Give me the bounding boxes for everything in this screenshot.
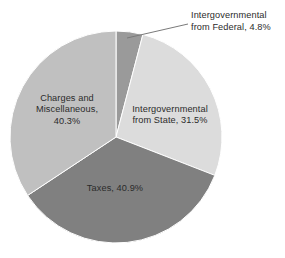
slice-label-intergovernmental-from-federal: Intergovernmental from Federal, 4.8% [191,10,285,33]
federal-leader-line [127,24,188,38]
slice-label-line-2: from Federal, 4.8% [191,22,285,34]
pie-slice-group [10,31,222,243]
slice-label-line-2: from State, 31.5% [122,115,218,126]
pie-chart-canvas [0,0,285,258]
slice-label-line-1: Taxes, 40.9% [72,183,158,194]
slice-label-line-3: 40.3% [22,116,112,127]
slice-label-charges-and-miscellaneous: Charges and Miscellaneous, 40.3% [22,93,112,127]
slice-label-line-1: Intergovernmental [191,10,285,22]
slice-label-line-2: Miscellaneous, [22,104,112,115]
slice-label-taxes: Taxes, 40.9% [72,183,158,194]
pie-chart: Charges and Miscellaneous, 40.3% Intergo… [0,0,285,258]
slice-label-line-1: Charges and [22,93,112,104]
slice-label-intergovernmental-from-state: Intergovernmental from State, 31.5% [122,104,218,127]
slice-label-line-1: Intergovernmental [122,104,218,115]
